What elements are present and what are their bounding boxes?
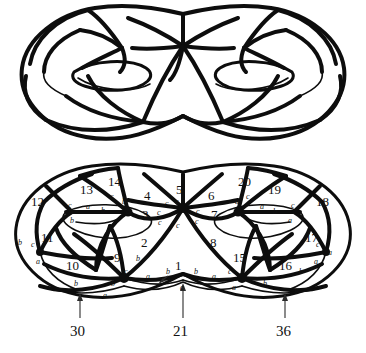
edge-letter-b-leftlower-w: b [111,280,115,288]
center-spoke-upright [183,18,238,46]
region-label-5: 5 [176,183,183,196]
edge-letter-b-face-16: b [263,280,267,288]
left-upper-spoke-c [82,48,122,68]
edge-letter-a-bottom-center: a [180,284,184,292]
edge-letter-a-leftupper-w2: a [86,203,90,211]
edge-letter-b-leftupper-ne: b [122,198,126,206]
region-label-1: 1 [175,259,182,272]
edge-letter-b-face-2: b [136,255,140,263]
edge-letter-c-face-9: c [124,268,128,276]
boundary-label-30: 30 [70,324,85,339]
edge-letter-c-face-18: c [291,202,295,210]
left-upper-spoke-d [120,48,125,72]
lower-right-vertex-arc-d [183,116,223,124]
edge-letter-b-leftupper-w: b [101,207,105,215]
edge-letter-a-bottom-left: a [103,292,107,300]
center-spoke-upleft [128,18,183,46]
far-left-vertex [36,248,44,256]
edge-letter-c-farleft-ne: c [31,241,35,249]
edge-letter-b-farleft-n: b [18,239,22,247]
edge-letter-b-face-10: b [74,280,78,288]
region-label-2: 2 [141,236,148,249]
edge-letter-b-farright-w2: b [299,268,303,276]
edge-letter-c-rightupper-n: c [246,193,250,201]
edge-letter-c-center-s: c [176,222,180,230]
arc-face-19 [248,168,286,176]
center-spoke-right [183,46,234,49]
region-label-16: 16 [279,259,292,272]
region-label-6: 6 [208,189,215,202]
edge-letter-b-face-11: b [70,217,74,225]
region-label-4: 4 [144,189,151,202]
edge-letter-c-center-se: c [195,218,199,226]
lower-right-outer-sweep [320,76,341,120]
edge-letter-c-center-w: c [157,209,161,217]
edge-letter-c-center-ne: c [187,200,191,208]
lower-left-vertex-arc-d [143,116,183,124]
right-upper-spoke-c [244,48,284,68]
edge-letter-b-rightupper-e: b [273,208,277,216]
lower-right-vertex-arc-a [223,76,278,122]
region-label-12: 12 [31,195,44,208]
edge-letter-c-face-12: c [68,202,72,210]
edge-letter-a-farright-w: a [314,258,318,266]
edge-letter-a-leftlower-e: a [146,273,150,281]
region-label-7: 7 [211,208,218,221]
edge-letter-a-bottom-right: a [295,286,299,294]
edge-letter-a-leftupper-e: a [126,208,130,216]
edge-letter-c-center-sw: c [158,219,162,227]
double-torus-embedding [0,0,366,160]
edge-letter-a-rightupper-nw: a [235,198,239,206]
edge-letter-a-rightupper-s: a [246,208,250,216]
edge-letter-a-rightlower-s: a [232,284,236,292]
region-label-15: 15 [233,251,246,264]
edge-letter-c-center-n: c [175,198,179,206]
region-label-10: 10 [66,259,79,272]
edge-letter-c-leftupper-n: c [110,193,114,201]
region-label-11: 11 [41,231,54,244]
region-label-14: 14 [108,175,121,188]
edge-letter-a-rightupper-e2: a [260,203,264,211]
edge-letter-c-center-nw: c [165,200,169,208]
right-lower-vertex [237,273,247,283]
boundary-label-36: 36 [276,324,291,339]
edge-letter-b-face-1-right: b [194,268,198,276]
edge-letter-a-rightlower-w: a [212,273,216,281]
lower-left-inner-sweep [44,72,66,96]
figure-root: 1 2 3 4 5 6 7 8 9 10 11 12 13 14 15 16 1… [0,0,366,353]
edge-letter-c-farright-nw: c [316,241,320,249]
edge-letter-a-farleft-e: a [36,258,40,266]
upper-left-mid-arc [44,30,80,72]
region-label-3: 3 [142,208,149,221]
lower-right-inner-sweep [300,72,322,96]
upper-right-mid-arc [286,30,322,72]
edge-letter-c-face-15: c [228,268,232,276]
region-label-20: 20 [238,175,251,188]
edge-letter-b-face-1-left: b [166,268,170,276]
region-label-19: 19 [268,183,281,196]
lower-left-outer-sweep [25,76,46,120]
right-upper-spoke-d [241,48,246,72]
lower-left-vertex-arc-a [88,76,143,122]
edge-letter-a-face-17: a [288,217,292,225]
edge-letter-c-center-e: c [196,208,200,216]
region-label-9: 9 [114,251,121,264]
region-label-18: 18 [316,195,329,208]
region-label-13: 13 [80,183,93,196]
right-upper-vertex [234,208,243,217]
boundary-label-21: 21 [173,324,188,339]
edge-letter-a-farright-n: a [328,249,332,257]
center-spoke-left [132,46,183,49]
region-label-8: 8 [210,236,217,249]
